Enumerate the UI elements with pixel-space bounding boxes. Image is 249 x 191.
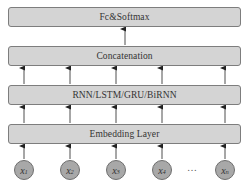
arrows-embed-to-rnn	[24, 107, 225, 123]
rnn-layer: RNN/LSTM/GRU/BiRNN	[8, 85, 241, 105]
arrows-input-to-embed	[24, 146, 225, 159]
arrows-rnn-to-concat	[24, 68, 225, 84]
input-node-x4: x4	[152, 160, 172, 180]
ellipsis: …	[187, 162, 197, 173]
input-node-x3: x3	[106, 160, 126, 180]
fc-softmax-layer: Fc&Softmax	[8, 7, 241, 27]
input-node-x2: x2	[60, 160, 80, 180]
input-node-xn: xn	[215, 160, 235, 180]
input-node-x1: x1	[14, 160, 34, 180]
embedding-layer: Embedding Layer	[8, 124, 241, 144]
concatenation-layer: Concatenation	[8, 46, 241, 66]
